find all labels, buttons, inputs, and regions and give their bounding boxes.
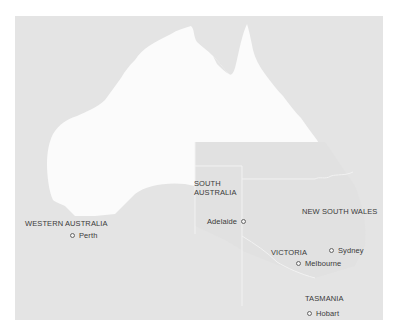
city-name: Hobart — [316, 309, 339, 318]
state-label-tasmania: TASMANIA — [305, 294, 344, 303]
city-melbourne: Melbourne — [296, 259, 341, 268]
city-sydney: Sydney — [329, 246, 364, 255]
state-label-south-australia: SOUTH AUSTRALIA — [194, 179, 237, 197]
state-name-line-1: SOUTH — [194, 179, 237, 188]
state-label-new-south-wales: NEW SOUTH WALES — [302, 207, 377, 216]
australia-map-svg — [15, 16, 383, 320]
circle-marker-icon — [296, 261, 301, 266]
state-name-line-2: AUSTRALIA — [194, 188, 237, 197]
state-name: NEW SOUTH WALES — [302, 207, 377, 216]
city-name: Adelaide — [207, 217, 237, 226]
city-adelaide: Adelaide — [207, 217, 246, 226]
state-name: VICTORIA — [271, 248, 307, 257]
state-name: WESTERN AUSTRALIA — [25, 219, 108, 228]
state-label-victoria: VICTORIA — [271, 248, 307, 257]
circle-marker-icon — [329, 248, 334, 253]
circle-marker-icon — [241, 219, 246, 224]
city-name: Sydney — [338, 246, 364, 255]
circle-marker-icon — [307, 311, 312, 316]
state-name: TASMANIA — [305, 294, 344, 303]
city-name: Perth — [79, 231, 97, 240]
city-hobart: Hobart — [307, 309, 339, 318]
city-name: Melbourne — [305, 259, 341, 268]
city-perth: Perth — [70, 231, 97, 240]
state-label-western-australia: WESTERN AUSTRALIA — [25, 219, 108, 228]
wa-southwest-landmass — [65, 154, 195, 216]
map-frame — [15, 16, 383, 320]
circle-marker-icon — [70, 233, 75, 238]
